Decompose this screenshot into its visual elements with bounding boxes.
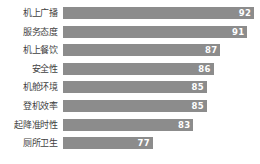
bar[interactable]: 83 [63,119,193,131]
category-label: 安全性 [6,63,63,75]
bar-track: 83 [63,119,254,131]
category-label: 登机效率 [6,100,63,112]
category-label: 机上餐饮 [6,44,63,56]
bar[interactable]: 91 [63,26,247,38]
bar-track: 77 [63,137,254,149]
table-row: 厕所卫生 77 [6,137,254,149]
table-row: 机上广播 92 [6,7,254,19]
table-row: 机上餐饮 87 [6,44,254,56]
bar[interactable]: 85 [63,81,207,93]
bar-value-label: 86 [198,63,210,75]
bar[interactable]: 92 [63,7,254,19]
bar-track: 86 [63,63,254,75]
bar-value-label: 77 [138,137,150,149]
bar-track: 85 [63,100,254,112]
bar-track: 92 [63,7,254,19]
bar-rows: 机上广播 92 服务态度 91 机上餐饮 87 [6,7,254,158]
bar-value-label: 87 [205,44,217,56]
bar[interactable]: 77 [63,137,153,149]
bar[interactable]: 87 [63,44,220,56]
table-row: 安全性 86 [6,63,254,75]
category-label: 机舱环境 [6,81,63,93]
category-label: 厕所卫生 [6,137,63,149]
bar-value-label: 85 [192,81,204,93]
table-row: 服务态度 91 [6,26,254,38]
bar-track: 91 [63,26,254,38]
category-label: 起降准时性 [6,119,63,131]
category-label: 服务态度 [6,26,63,38]
bar-value-label: 92 [239,7,251,19]
table-row: 机舱环境 85 [6,81,254,93]
bar[interactable]: 86 [63,63,214,75]
bar-chart: 机上广播 92 服务态度 91 机上餐饮 87 [0,0,260,164]
table-row: 起降准时性 83 [6,119,254,131]
bar-value-label: 83 [178,119,190,131]
table-row: 登机效率 85 [6,100,254,112]
bar-track: 87 [63,44,254,56]
bar[interactable]: 85 [63,100,207,112]
category-label: 机上广播 [6,7,63,19]
bar-value-label: 85 [192,100,204,112]
bar-value-label: 91 [232,26,244,38]
bar-track: 85 [63,81,254,93]
